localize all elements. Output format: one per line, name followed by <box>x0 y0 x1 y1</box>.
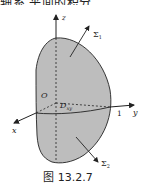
figure-caption: 图 13.2.7 <box>0 168 136 184</box>
closed-surface <box>36 38 111 163</box>
y-axis-label: y <box>132 108 138 117</box>
y-tick-one-label: 1 <box>117 109 122 118</box>
surface-diagram: z O x y 1 Dxy Σ1 Σ2 <box>0 0 153 187</box>
y-axis-arrow <box>110 105 134 107</box>
z-axis-label: z <box>61 14 66 22</box>
x-axis-arrow <box>14 113 36 123</box>
origin-label: O <box>41 91 48 100</box>
x-axis-label: x <box>12 126 17 135</box>
sigma1-label: Σ1 <box>93 30 102 40</box>
